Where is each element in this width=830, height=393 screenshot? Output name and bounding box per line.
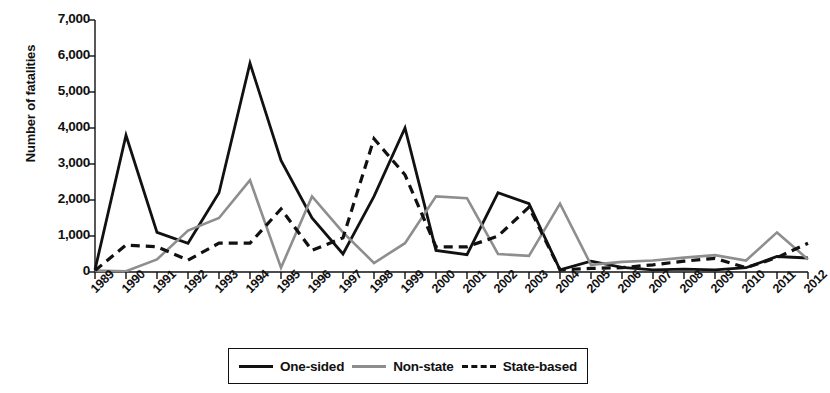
y-tick-label: 7,000 [38,11,90,26]
legend-item-state-based: State-based [462,359,577,374]
legend-item-one-sided: One-sided [239,359,344,374]
y-tick-label: 1,000 [38,227,90,242]
y-tick-label: 0 [38,263,90,278]
legend-label-state-based: State-based [503,359,577,374]
y-tick-label: 6,000 [38,47,90,62]
legend-item-non-state: Non-state [352,359,453,374]
y-axis-tick-labels: 01,0002,0003,0004,0005,0006,0007,000 [36,0,90,293]
chart-legend: One-sided Non-state State-based [228,348,588,384]
series-line-non-state [95,180,808,271]
series-line-one-sided [95,63,808,270]
chart-series-group [95,63,808,271]
solid-gray-line-icon [352,365,386,368]
legend-label-one-sided: One-sided [280,359,344,374]
chart-axes [89,20,808,272]
legend-label-non-state: Non-state [393,359,453,374]
dashed-black-line-icon [462,365,496,368]
y-tick-label: 5,000 [38,83,90,98]
y-tick-label: 2,000 [38,191,90,206]
y-tick-label: 3,000 [38,155,90,170]
solid-black-line-icon [239,365,273,368]
y-tick-label: 4,000 [38,119,90,134]
series-line-state-based [95,139,808,271]
